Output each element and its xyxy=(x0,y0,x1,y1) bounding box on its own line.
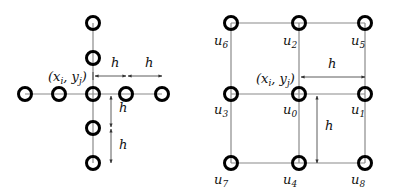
label-u3: u3 xyxy=(214,102,228,119)
label-u6: u6 xyxy=(214,33,228,50)
grid-h-label: h xyxy=(328,56,336,71)
label-u0: u0 xyxy=(283,102,297,119)
right-grid: h h (xi, yj) u6 u2 u5 u3 u0 u1 u7 u4 u8 xyxy=(214,17,372,190)
label-u2: u2 xyxy=(283,33,297,50)
grid-v-label: h xyxy=(325,118,333,133)
center-coordinate-label: (xi, yj) xyxy=(48,69,87,86)
label-u8: u8 xyxy=(351,172,365,189)
label-u5: u5 xyxy=(351,33,365,50)
left-stencil: h h h h (xi, yj) xyxy=(19,17,169,170)
h-label-4: h xyxy=(119,137,127,152)
h-label-2: h xyxy=(145,55,153,70)
grid-center-coordinate-label: (xi, yj) xyxy=(256,71,295,88)
h-label-1: h xyxy=(111,55,119,70)
label-u1: u1 xyxy=(351,102,365,119)
label-u4: u4 xyxy=(283,172,297,189)
h-label-3: h xyxy=(119,100,127,115)
stencil-diagrams: h h h h (xi, yj) xyxy=(0,0,393,194)
label-u7: u7 xyxy=(214,172,228,189)
